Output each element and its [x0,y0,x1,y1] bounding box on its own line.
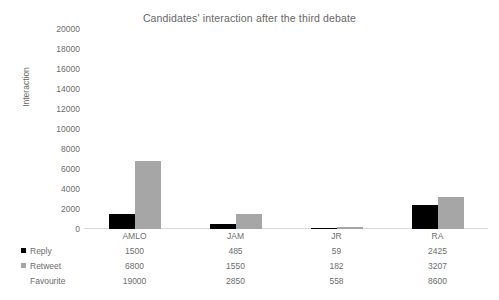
plot-area [84,29,488,229]
legend-swatch-reply-icon [21,248,26,253]
bar-group-bars [387,29,488,229]
bar-retweet-amlo[interactable] [135,161,161,229]
bar-group [185,29,286,229]
bar-group-bars [84,29,185,229]
value-favourite-ra: 8600 [387,276,488,286]
value-retweet-jr: 182 [286,261,387,271]
data-table-legend: AMLOJAMJRRAReply1500485592425Retweet6800… [0,229,499,288]
value-retweet-jam: 1550 [185,261,286,271]
bar-group [84,29,185,229]
bar-group-bars [185,29,286,229]
y-axis-tick: 8000 [36,144,80,154]
y-axis-title: Interaction [21,56,35,118]
y-axis-tick: 18000 [36,44,80,54]
table-row-favourite: Favourite1900028505588600 [0,273,499,288]
value-reply-jr: 59 [286,246,387,256]
y-axis-tick: 12000 [36,104,80,114]
bar-reply-ra[interactable] [412,205,438,229]
category-label-jr: JR [286,231,387,241]
bar-reply-amlo[interactable] [109,214,135,229]
bar-retweet-jam[interactable] [236,214,262,230]
value-retweet-amlo: 6800 [84,261,185,271]
y-axis-tick: 4000 [36,184,80,194]
table-row-reply: Reply1500485592425 [0,243,499,258]
y-axis-tick: 14000 [36,84,80,94]
legend-item-favourite[interactable]: Favourite [0,276,84,286]
bar-group [286,29,387,229]
y-axis-tick: 6000 [36,164,80,174]
legend-swatch-retweet-icon [21,263,26,268]
legend-item-reply[interactable]: Reply [0,246,84,256]
category-label-ra: RA [387,231,488,241]
value-retweet-ra: 3207 [387,261,488,271]
value-reply-amlo: 1500 [84,246,185,256]
bar-retweet-ra[interactable] [438,197,464,229]
y-axis-tick-labels: 2000018000160001400012000100008000600040… [36,29,80,235]
value-reply-jam: 485 [185,246,286,256]
bar-group-bars [286,29,387,229]
y-axis-tick: 2000 [36,204,80,214]
value-favourite-jr: 558 [286,276,387,286]
value-favourite-jam: 2850 [185,276,286,286]
category-label-amlo: AMLO [84,231,185,241]
legend-swatch-none-icon [21,278,26,283]
value-reply-ra: 2425 [387,246,488,256]
y-axis-tick: 16000 [36,64,80,74]
bar-group [387,29,488,229]
chart-container: Candidates' interaction after the third … [0,0,499,300]
table-row-retweet: Retweet680015501823207 [0,258,499,273]
category-label-jam: JAM [185,231,286,241]
legend-label-reply: Reply [30,246,80,256]
y-axis-tick: 10000 [36,124,80,134]
table-row-categories: AMLOJAMJRRA [0,229,499,243]
legend-label-favourite: Favourite [30,276,80,286]
y-axis-tick: 20000 [36,24,80,34]
value-favourite-amlo: 19000 [84,276,185,286]
legend-item-retweet[interactable]: Retweet [0,261,84,271]
chart-title: Candidates' interaction after the third … [0,12,499,24]
legend-label-retweet: Retweet [30,261,80,271]
